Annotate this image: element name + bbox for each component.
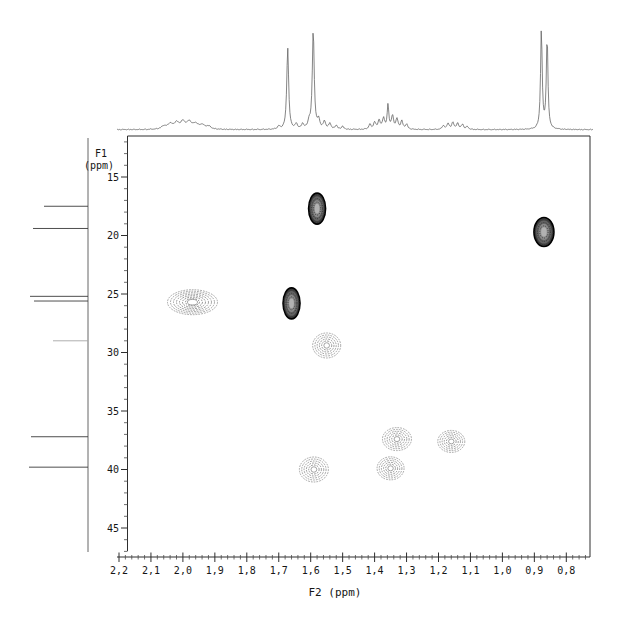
f2-axis-title: F2 (ppm) xyxy=(309,586,362,599)
f2-tick-label: 1,8 xyxy=(238,565,256,576)
contour-center xyxy=(388,466,393,471)
cross-peak xyxy=(377,457,404,480)
cross-peak xyxy=(438,430,465,452)
contour-ring xyxy=(541,227,547,236)
f1-axis: 15202530354045 xyxy=(107,142,128,552)
cross-peak xyxy=(309,193,326,224)
f2-axis: 2,22,12,01,91,81,71,61,51,41,31,21,11,00… xyxy=(110,553,586,577)
f2-tick-label: 1,4 xyxy=(366,565,384,576)
f1-tick-label: 15 xyxy=(107,172,119,183)
cross-peak xyxy=(283,288,300,319)
cross-peak xyxy=(534,217,554,246)
f1-tick-label: 45 xyxy=(107,523,119,534)
contour-center xyxy=(324,343,330,349)
cross-peak xyxy=(167,290,217,315)
f1-tick-label: 25 xyxy=(107,289,119,300)
contour-ring xyxy=(289,298,294,308)
f1-tick-label: 35 xyxy=(107,406,119,417)
hsqc-contour-plot: 2,22,12,01,91,81,71,61,51,41,31,21,11,00… xyxy=(0,0,621,624)
f2-tick-label: 1,0 xyxy=(493,565,511,576)
f2-tick-label: 2,0 xyxy=(174,565,192,576)
f2-tick-label: 0,9 xyxy=(525,565,543,576)
f2-tick-label: 2,2 xyxy=(110,565,128,576)
f2-tick-label: 2,1 xyxy=(142,565,160,576)
plot-frame xyxy=(117,136,590,557)
contour-center xyxy=(449,439,454,444)
contour-ring xyxy=(315,204,320,214)
f1-tick-label: 30 xyxy=(107,347,119,358)
f1-carbon-projection-trace xyxy=(29,138,88,552)
cross-peaks-layer xyxy=(167,193,553,482)
f2-tick-label: 1,5 xyxy=(334,565,352,576)
f1-tick-label: 20 xyxy=(107,230,119,241)
f2-tick-label: 1,1 xyxy=(461,565,479,576)
f2-proton-projection-trace xyxy=(117,31,593,130)
proton-spectrum-path xyxy=(117,31,593,130)
f1-axis-title-line1: F1 xyxy=(95,148,107,159)
contour-center xyxy=(394,437,400,442)
cross-peak xyxy=(299,457,328,482)
contour-center xyxy=(187,299,197,305)
f2-tick-label: 1,2 xyxy=(429,565,447,576)
f2-tick-label: 1,6 xyxy=(302,565,320,576)
f1-axis-title-line2: (ppm) xyxy=(84,160,114,171)
f2-tick-label: 1,3 xyxy=(398,565,416,576)
f2-tick-label: 1,9 xyxy=(206,565,224,576)
contour-center xyxy=(311,467,317,473)
f2-tick-label: 0,8 xyxy=(557,565,575,576)
f1-tick-label: 40 xyxy=(107,464,119,475)
f2-tick-label: 1,7 xyxy=(270,565,288,576)
cross-peak xyxy=(382,428,411,451)
nmr-2d-spectrum-page: 2,22,12,01,91,81,71,61,51,41,31,21,11,00… xyxy=(0,0,621,624)
cross-peak xyxy=(313,333,341,358)
